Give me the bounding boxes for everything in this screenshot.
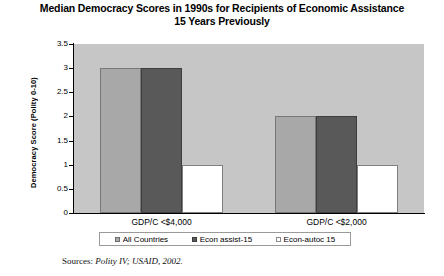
- y-axis-tick-label: 2.5: [34, 88, 68, 96]
- chart-title: Median Democracy Scores in 1990s for Rec…: [20, 2, 424, 28]
- y-axis-tick: [69, 68, 74, 69]
- source-prefix: Sources:: [62, 256, 95, 266]
- x-axis-category-label: GDP/C <$4,000: [74, 217, 249, 227]
- bar: [141, 68, 182, 213]
- x-axis-line: [73, 213, 425, 214]
- source-citation: Polity IV; USAID, 2002.: [95, 256, 183, 266]
- legend-item[interactable]: Econ assist-15: [192, 235, 252, 244]
- chart-legend: All CountriesEcon assist-15Econ-autoc 15: [99, 232, 351, 246]
- y-axis-tick-label: 3: [34, 64, 68, 72]
- chart-title-line-1: Median Democracy Scores in 1990s for Rec…: [40, 2, 404, 14]
- bar: [100, 68, 141, 213]
- chart-title-line-2: 15 Years Previously: [20, 15, 424, 28]
- legend-label: Econ assist-15: [200, 235, 252, 244]
- bar: [275, 116, 316, 213]
- y-axis-tick-label: 3.5: [34, 40, 68, 48]
- legend-label: All Countries: [123, 235, 168, 244]
- y-axis-tick-label: 2: [34, 112, 68, 120]
- bar: [357, 165, 398, 213]
- y-axis-tick: [69, 165, 74, 166]
- y-axis-tick: [69, 92, 74, 93]
- bar: [316, 116, 357, 213]
- legend-swatch-icon: [276, 237, 281, 242]
- legend-item[interactable]: Econ-autoc 15: [276, 235, 336, 244]
- chart-figure: Median Democracy Scores in 1990s for Rec…: [0, 0, 444, 276]
- y-axis-tick-label: 0.5: [34, 185, 68, 193]
- y-axis-tick: [69, 116, 74, 117]
- y-axis-tick: [69, 44, 74, 45]
- legend-swatch-icon: [192, 237, 197, 242]
- source-note: Sources: Polity IV; USAID, 2002.: [62, 256, 183, 266]
- y-axis-tick: [69, 141, 74, 142]
- legend-label: Econ-autoc 15: [284, 235, 336, 244]
- legend-swatch-icon: [115, 237, 120, 242]
- y-axis-tick-label: 1.5: [34, 137, 68, 145]
- y-axis-tick: [69, 213, 74, 214]
- y-axis-tick-label: 0: [34, 209, 68, 217]
- legend-item[interactable]: All Countries: [115, 235, 168, 244]
- bar: [182, 165, 223, 213]
- y-axis-tick: [69, 189, 74, 190]
- x-axis-category-label: GDP/C <$2,000: [249, 217, 424, 227]
- y-axis-tick-label: 1: [34, 161, 68, 169]
